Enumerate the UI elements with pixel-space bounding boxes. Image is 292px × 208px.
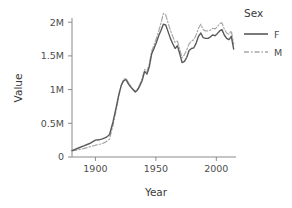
y-tick-label-0-5m: 0.5M [41,118,64,129]
legend-label-f: F [274,29,279,40]
y-tick-label-0: 0 [58,151,64,162]
legend-title: Sex [244,7,263,19]
line-chart: 2M 1.5M 1M 0.5M 0 1900 1950 2000 Year Va… [0,0,292,208]
x-axis-title: Year [144,186,168,198]
y-tick-label-1m: 1M [50,84,64,95]
y-axis-title: Value [12,74,24,103]
legend-label-m: M [274,47,282,58]
x-tick-label-1950: 1950 [144,163,168,174]
y-tick-label-1-5m: 1.5M [41,50,64,61]
chart-background [0,0,292,208]
x-tick-label-2000: 2000 [204,163,228,174]
y-tick-label-2m: 2M [50,17,64,28]
x-tick-label-1900: 1900 [83,163,107,174]
chart-canvas: 2M 1.5M 1M 0.5M 0 1900 1950 2000 Year Va… [0,0,292,208]
x-axis-tick-labels: 1900 1950 2000 [83,163,228,174]
